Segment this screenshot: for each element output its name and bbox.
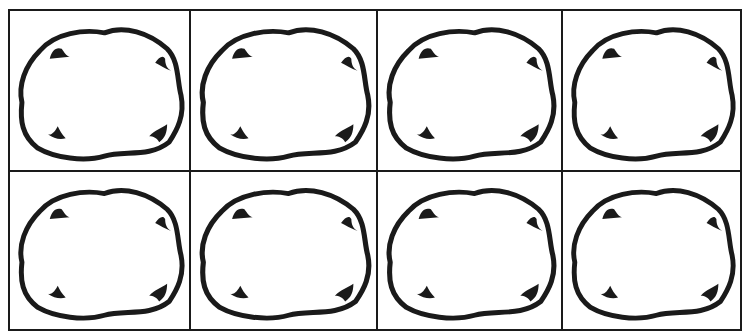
grid-cell	[10, 11, 191, 172]
mark-icon	[602, 209, 622, 219]
oval-outline-icon	[378, 172, 561, 329]
oval-outline-icon	[191, 172, 376, 329]
mark-icon	[341, 217, 357, 231]
mark-icon	[419, 48, 439, 58]
mark-icon	[149, 124, 167, 142]
mark-icon	[232, 48, 253, 58]
oval-outline-icon	[191, 11, 376, 170]
mark-icon	[520, 284, 538, 302]
worksheet-grid	[8, 9, 742, 331]
mark-icon	[149, 284, 167, 302]
mark-icon	[600, 286, 618, 299]
mark-icon	[701, 124, 719, 142]
mark-icon	[707, 217, 723, 231]
grid-cell	[378, 172, 563, 329]
grid-cell	[378, 11, 563, 172]
mark-icon	[50, 209, 70, 219]
oval-outline-icon	[378, 11, 561, 170]
mark-icon	[526, 57, 542, 71]
mark-icon	[230, 286, 249, 299]
grid-cell	[563, 11, 740, 172]
mark-icon	[230, 126, 249, 139]
mark-icon	[48, 126, 66, 139]
mark-icon	[600, 126, 618, 139]
mark-icon	[417, 126, 435, 139]
mark-icon	[701, 284, 719, 302]
mark-icon	[335, 284, 354, 302]
mark-icon	[707, 57, 723, 71]
mark-icon	[155, 57, 171, 71]
mark-icon	[48, 286, 66, 299]
mark-icon	[417, 286, 435, 299]
mark-icon	[520, 124, 538, 142]
oval-outline-icon	[563, 11, 740, 170]
oval-outline-icon	[10, 172, 189, 329]
grid-cell	[191, 11, 378, 172]
mark-icon	[419, 209, 439, 219]
oval-outline-icon	[563, 172, 740, 329]
grid-cell	[563, 172, 740, 329]
mark-icon	[335, 124, 354, 142]
grid-cell	[10, 172, 191, 329]
mark-icon	[341, 57, 357, 71]
mark-icon	[155, 217, 171, 231]
mark-icon	[602, 48, 622, 58]
mark-icon	[50, 48, 70, 58]
grid-cell	[191, 172, 378, 329]
mark-icon	[526, 217, 542, 231]
mark-icon	[232, 209, 253, 219]
oval-outline-icon	[10, 11, 189, 170]
